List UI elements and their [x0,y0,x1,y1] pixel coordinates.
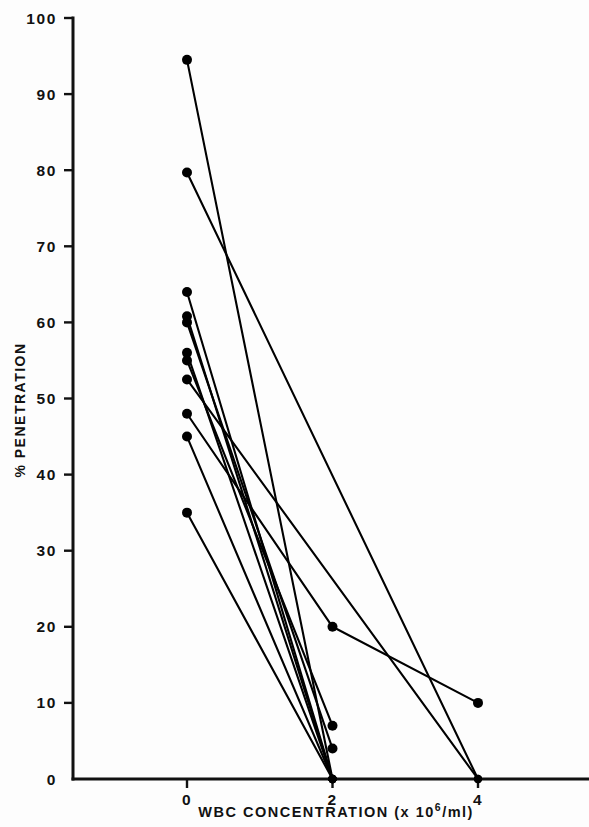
tick-marks [64,18,478,788]
y-tick-label-0: 0 [47,771,57,788]
series-line-subject-11 [187,513,333,779]
y-tick-label-60: 60 [37,314,57,331]
marker-subject-9-1 [328,622,338,632]
x-tick-label-0: 0 [182,791,192,808]
series-line-subject-8 [187,379,478,779]
marker-subject-11-0 [182,508,192,518]
marker-subject-9-2 [473,698,483,708]
y-tick-label-90: 90 [37,86,57,103]
marker-subject-11-1 [328,775,336,783]
x-axis-title: WBC CONCENTRATION (x 106/ml) [198,801,474,820]
y-axis-title: % PENETRATION [12,342,28,477]
marker-subject-5-1 [328,744,338,754]
x-axis-title-text: WBC CONCENTRATION (x 106/ml) [198,801,474,820]
y-tick-label-30: 30 [37,542,57,559]
marker-subject-7-0 [182,355,192,365]
marker-subject-8-0 [182,374,192,384]
marker-subject-9-0 [182,409,192,419]
axes [73,18,589,779]
marker-subject-5-0 [182,317,192,327]
marker-subject-3-0 [182,287,192,297]
y-tick-label-20: 20 [37,618,57,635]
series-line-subject-5 [187,322,333,748]
y-axis-tick-labels: 0102030405060708090100 [26,10,57,788]
chart-figure: 0102030405060708090100 024 WBC CONCENTRA… [0,0,589,827]
series-line-subject-10 [187,437,333,779]
marker-subject-10-0 [182,432,192,442]
data-series [187,60,478,779]
marker-subject-8-1 [474,775,482,783]
y-tick-label-80: 80 [37,162,57,179]
y-tick-label-10: 10 [37,694,57,711]
y-tick-label-50: 50 [37,390,57,407]
y-axis-title-text: % PENETRATION [12,342,28,477]
series-line-subject-2 [187,172,478,779]
penetration-vs-wbc-line-chart: 0102030405060708090100 024 WBC CONCENTRA… [0,0,589,827]
marker-subject-7-1 [328,721,338,731]
x-tick-label-4: 4 [473,791,483,808]
y-tick-label-40: 40 [37,466,57,483]
data-point-markers [182,55,483,783]
marker-subject-2-0 [182,167,192,177]
y-tick-label-70: 70 [37,238,57,255]
y-tick-label-100: 100 [26,10,57,27]
marker-subject-1-0 [182,55,192,65]
